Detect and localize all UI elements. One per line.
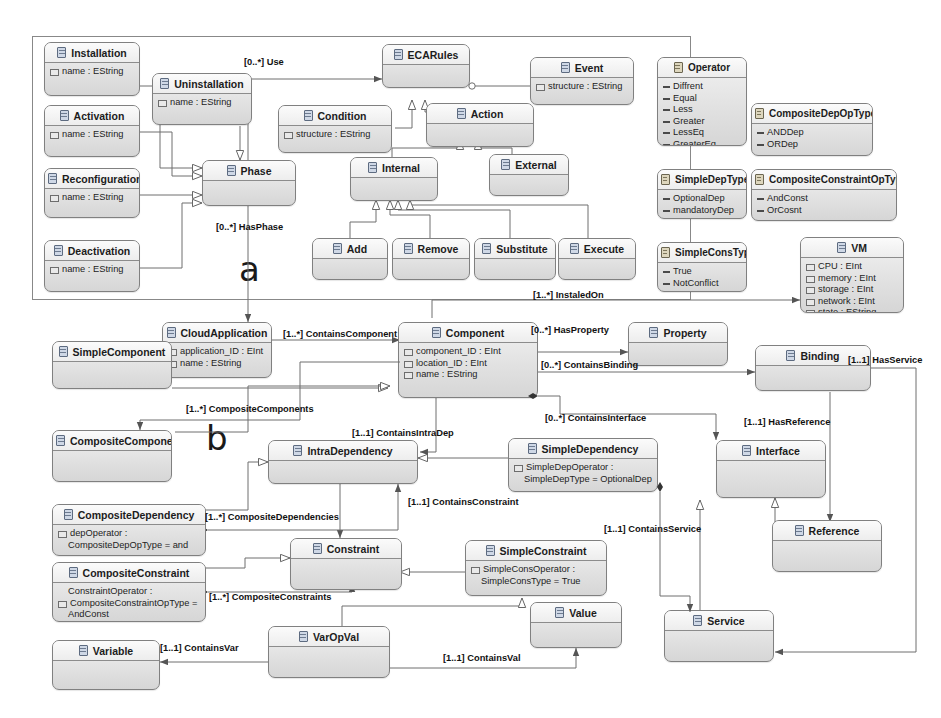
eclass-icon (69, 567, 78, 578)
class-internal[interactable]: Internal (350, 157, 438, 201)
eclass-icon (293, 445, 302, 456)
attribute-row: network : EInt (806, 296, 898, 308)
class-attributes: CPU : EInt memory : EInt storage : EInt … (801, 258, 903, 313)
class-header: Substitute (475, 239, 555, 259)
class-ecarules[interactable]: ECARules (382, 44, 470, 88)
enum-header: CompositeDepOpType (752, 104, 872, 124)
attribute-icon (404, 361, 413, 368)
class-vm[interactable]: VM CPU : EInt memory : EInt storage : EI… (800, 237, 904, 313)
class-header: Action (427, 104, 533, 124)
class-simpledependency[interactable]: SimpleDependency SimpleDepOperator : Sim… (508, 438, 658, 492)
eclass-icon (457, 108, 466, 119)
class-component[interactable]: Component component_ID : EInt location_I… (398, 322, 538, 398)
attribute-icon (50, 132, 59, 139)
eclass-icon (501, 159, 510, 170)
eclass-icon (795, 525, 804, 536)
edge-label-containsval: [1..1] ContainsVal (443, 653, 521, 663)
class-header: SimpleConstraint (466, 541, 606, 561)
class-header: Execute (559, 239, 635, 259)
class-compositeconstraint[interactable]: CompositeConstraint ConstraintOperator :… (52, 562, 206, 622)
enum-compositedepoptype[interactable]: CompositeDepOpType ANDDep ORDep (751, 103, 873, 156)
class-cloudapplication[interactable]: CloudApplication application_ID : EInt n… (162, 322, 272, 378)
class-attributes (773, 541, 881, 546)
class-phase[interactable]: Phase (202, 160, 296, 206)
class-compositecomponent[interactable]: CompositeComponent (52, 430, 172, 482)
eenum-icon (755, 174, 764, 185)
class-activation[interactable]: Activation name : EString (44, 105, 140, 157)
class-action[interactable]: Action (426, 103, 534, 147)
class-header: Constraint (291, 539, 401, 559)
edge-label-containscomponent: [1..*] ContainsComponent (283, 329, 397, 339)
class-reference[interactable]: Reference (772, 520, 882, 572)
literal-icon (757, 132, 764, 134)
eclass-icon (837, 242, 846, 253)
class-property[interactable]: Property (628, 322, 728, 366)
attribute-icon (50, 267, 59, 274)
class-header: Reconfiguration (45, 169, 139, 189)
enum-compositeconstraintoptype[interactable]: CompositeConstraintOpType AndConst OrCos… (751, 169, 897, 221)
class-substitute[interactable]: Substitute (474, 238, 556, 280)
class-add[interactable]: Add (312, 238, 388, 280)
edge-label-hasreference: [1..1] HasReference (744, 417, 830, 427)
edge-label-containsinterface: [0..*] ContainsInterface (545, 413, 646, 423)
class-external[interactable]: External (489, 154, 569, 196)
eclass-icon (167, 327, 176, 338)
class-uninstallation[interactable]: Uninstallation name : EString (152, 73, 252, 125)
enum-literal: Greater (663, 116, 741, 128)
attribute-row: SimpleConsOperator : (471, 564, 601, 576)
class-simpleconstraint[interactable]: SimpleConstraint SimpleConsOperator : Si… (465, 540, 607, 596)
class-constraint[interactable]: Constraint (290, 538, 402, 590)
enum-operator[interactable]: Operator Diffrent Equal Less Greater Les… (657, 57, 747, 146)
class-interface[interactable]: Interface (716, 440, 826, 498)
class-remove[interactable]: Remove (392, 238, 470, 280)
edge-label-use: [0..*] Use (244, 57, 284, 67)
enum-literals: AndConst OrCosnt (752, 190, 896, 218)
class-header: IntraDependency (269, 441, 417, 461)
enum-literals: Diffrent Equal Less Greater LessEq Great… (658, 78, 746, 146)
edge-label-containsconstraint: [1..1] ContainsConstraint (408, 497, 519, 507)
class-event[interactable]: Event structure : EString (530, 57, 634, 105)
attribute-icon-spacer (471, 576, 478, 577)
literal-icon (663, 198, 670, 200)
class-condition[interactable]: Condition structure : EString (278, 105, 392, 153)
edge-label-compositeconstraints: [1..*] CompositeConstraints (209, 592, 331, 602)
attribute-row: CompositeConstraintOpType = (58, 598, 200, 610)
enum-literals: OptionalDep mandatoryDep (658, 190, 746, 218)
class-service[interactable]: Service (664, 610, 774, 662)
edge-label-hasservice: [1..1] HasService (848, 355, 922, 365)
eclass-icon (786, 350, 795, 361)
enum-literal: AndConst (757, 193, 891, 205)
class-attributes: name : EString (153, 94, 251, 111)
class-variable[interactable]: Variable (52, 640, 160, 690)
class-reconfiguration[interactable]: Reconfiguration name : EString (44, 168, 140, 218)
eenum-icon (661, 247, 670, 258)
class-attributes (203, 181, 295, 186)
enum-simpledeptype[interactable]: SimpleDepType OptionalDep mandatoryDep (657, 169, 747, 219)
class-header: CompositeConstraint (53, 563, 205, 583)
class-header: Interface (717, 441, 825, 461)
literal-icon (757, 144, 764, 146)
class-attributes: SimpleDepOperator : SimpleDepType = Opti… (509, 459, 657, 487)
enum-header: Operator (658, 58, 746, 78)
class-attributes (269, 647, 389, 652)
class-header: VM (801, 238, 903, 258)
enum-literals: True NotConflict (658, 263, 746, 291)
class-installation[interactable]: Installation name : EString (44, 42, 140, 96)
class-attributes (475, 259, 555, 264)
literal-icon (663, 121, 670, 123)
enum-simpleconstype[interactable]: SimpleConsType True NotConflict (657, 242, 747, 292)
class-binding[interactable]: Binding (755, 345, 871, 391)
class-value[interactable]: Value (530, 602, 622, 648)
class-deactivation[interactable]: Deactivation name : EString (44, 240, 140, 292)
attribute-row: name : EString (50, 66, 134, 78)
enum-literal: mandatoryDep (663, 205, 741, 217)
class-varopval[interactable]: VarOpVal (268, 626, 390, 678)
class-compositedependency[interactable]: CompositeDependency depOperator : Compos… (52, 504, 206, 556)
class-execute[interactable]: Execute (558, 238, 636, 280)
class-header: Installation (45, 43, 139, 63)
attribute-icon (806, 276, 815, 283)
eclass-icon (570, 243, 579, 254)
eclass-icon (432, 327, 441, 338)
class-simplecomponent[interactable]: SimpleComponent (52, 341, 172, 389)
class-intradependency[interactable]: IntraDependency (268, 440, 418, 484)
